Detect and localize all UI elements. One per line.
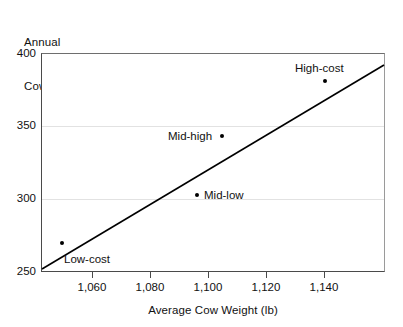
x-axis-title: Average Cow Weight (lb)	[41, 304, 385, 317]
x-tick-mark-1120	[266, 272, 267, 278]
x-tick-mark-1140	[324, 272, 325, 278]
x-tick-label-1100: 1,100	[180, 281, 236, 294]
y-tick-label-350: 350	[2, 119, 36, 131]
data-label-low-cost: Low-cost	[64, 253, 110, 266]
x-tick-label-1140: 1,140	[296, 281, 352, 294]
x-tick-label-1080: 1,080	[122, 281, 178, 294]
y-tick-label-400: 400	[2, 47, 36, 59]
x-tick-mark-1080	[150, 272, 151, 278]
x-tick-label-1060: 1,060	[64, 281, 120, 294]
x-tick-mark-1060	[92, 272, 93, 278]
cow-cost-scatter-chart: Annual Cow Cost ($) 400 350 300 250 1,06…	[0, 0, 403, 327]
gridline-350	[42, 126, 384, 127]
data-label-mid-low: Mid-low	[204, 189, 244, 202]
y-tick-label-300: 300	[2, 192, 36, 204]
x-tick-mark-1100	[208, 272, 209, 278]
data-label-mid-high: Mid-high	[168, 130, 212, 143]
plot-area	[41, 53, 385, 272]
y-tick-label-250: 250	[2, 265, 36, 277]
data-label-high-cost: High-cost	[295, 62, 344, 75]
x-tick-label-1120: 1,120	[238, 281, 294, 294]
